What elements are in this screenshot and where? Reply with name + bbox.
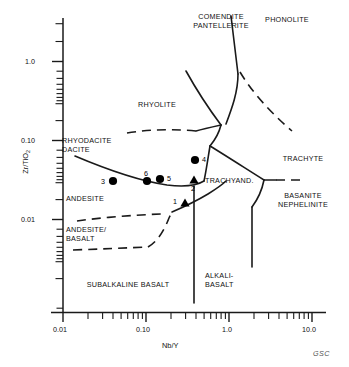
diagram-vector-layer [0,0,349,367]
field-label-nephelinite: NEPHELINITE [262,201,344,210]
point-label-6: 6 [144,169,148,178]
y-tick-label-0.10: 0.10 [21,136,35,145]
y-axis-title: Zr/TiO2 [12,150,39,182]
y-axis-minor-ticks [56,24,64,309]
field-label-andesite-basalt-line2: BASALT [66,235,136,244]
field-label-pantellerite: PANTELLERITE [180,22,262,31]
field-label-phonolite: PHONOLITE [252,16,322,25]
boundary-node-to-trachyand [210,125,221,146]
boundary-rhyolite-rhyodacite [196,125,221,131]
x-axis-minor-ticks [88,313,308,320]
boundary-phonolite-trachyte [226,74,238,124]
y-tick-label-0.01: 0.01 [21,215,35,224]
x-axis-title: Nb/Y [162,341,178,350]
field-label-andesite: ANDESITE [66,195,136,204]
field-label-subalkaline-basalt: SUBALKALINE BASALT [67,281,189,290]
x-tick-label-0.10: 0.10 [136,325,150,334]
point-label-2: 2 [191,184,195,193]
field-boundaries-dashed [73,72,300,250]
point-label-1: 1 [173,197,177,206]
marker-point-1 [180,199,189,207]
y-axis-title-subscript: 2 [25,150,31,153]
boundary-trachyand-basanite [210,146,264,180]
field-label-dacite: DACITE [62,146,142,155]
boundary-dacite-andesite [75,156,204,186]
boundary-rhyolite-comendite [186,71,221,125]
marker-point-4 [191,156,199,164]
boundary-rhyodacite-upper-dashed [127,130,196,133]
x-tick-label-1.0: 1.0 [222,325,232,334]
marker-point-6 [143,177,151,185]
y-axis-title-main: Zr/TiO [21,153,30,174]
field-boundaries-solid [75,16,276,303]
boundary-andesite-basalt-lower [73,247,148,250]
credit-gsc: GSC [313,349,330,358]
field-label-trachyte: TRACHYTE [272,155,334,164]
point-label-4: 4 [202,155,206,164]
marker-point-3 [109,177,117,185]
y-tick-label-1: 1.0 [25,57,35,66]
field-label-trachyandesite: TRACHYAND. [205,177,265,186]
x-tick-label-10.0: 10.0 [302,325,316,334]
boundary-alkali-rise-dashed [148,212,172,247]
marker-point-5 [156,175,164,183]
boundary-andesite-basalt-upper [77,214,162,221]
marker-point-2 [189,176,198,184]
point-label-5: 5 [167,174,171,183]
x-tick-label-0.01: 0.01 [53,325,67,334]
field-label-alkali-line2: BASALT [205,281,255,290]
field-label-rhyolite: RHYOLITE [126,101,188,110]
point-label-3: 3 [101,177,105,186]
axis-frame [51,18,326,313]
x-axis-major-ticks [63,313,312,323]
boundary-phonolite-trachyte-dashed [240,72,292,131]
classification-diagram: 1.0 0.10 0.01 0.01 0.10 1.0 10.0 Nb/Y Zr… [0,0,349,367]
